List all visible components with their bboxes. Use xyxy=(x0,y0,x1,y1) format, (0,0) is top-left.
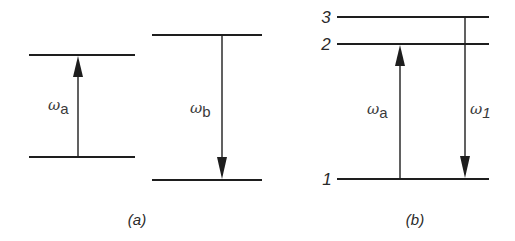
omega-a-label: ωa xyxy=(367,100,388,121)
caption-a: (a) xyxy=(128,211,146,228)
arrow-down-icon xyxy=(217,157,227,179)
omega-a-label: ωa xyxy=(48,96,69,117)
caption-b: (b) xyxy=(406,211,424,228)
level-1-label: 1 xyxy=(322,170,331,189)
arrow-down-icon xyxy=(460,156,470,178)
omega-b-label: ωb xyxy=(190,99,211,120)
energy-level-diagram: ωa ωb (a) 3 2 1 ωa ω1 (b) xyxy=(0,0,515,241)
panel-a-transition-b: ωb xyxy=(152,35,262,180)
level-2-label: 2 xyxy=(320,35,331,54)
arrow-up-icon xyxy=(73,56,83,77)
level-3-label: 3 xyxy=(321,8,331,27)
panel-a-transition-a: ωa xyxy=(29,55,135,157)
arrow-up-icon xyxy=(395,45,405,66)
omega-1-label: ω1 xyxy=(470,100,491,121)
panel-b: 3 2 1 ωa ω1 xyxy=(320,8,490,189)
